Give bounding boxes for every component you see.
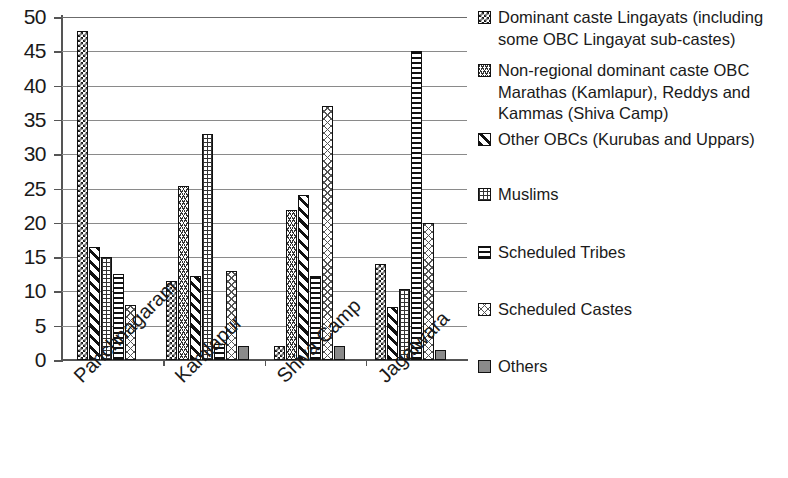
y-axis-tick-label: 5 bbox=[0, 315, 46, 336]
x-axis-tick-mark bbox=[265, 359, 267, 366]
bar-group bbox=[163, 17, 264, 360]
bar-chart-figure: 05101520253035404550 PanchnagaramKamlapu… bbox=[0, 0, 788, 478]
legend-label: Other OBCs (Kurubas and Uppars) bbox=[498, 129, 755, 151]
y-axis-tick-label: 10 bbox=[0, 280, 46, 301]
y-axis-tick-label: 0 bbox=[0, 349, 46, 370]
y-axis-tick-label: 20 bbox=[0, 212, 46, 233]
y-axis-tick-label: 50 bbox=[0, 6, 46, 27]
bar-solid-gray bbox=[238, 346, 249, 360]
legend-item[interactable]: Other OBCs (Kurubas and Uppars) bbox=[478, 129, 755, 151]
legend-item[interactable]: Muslims bbox=[478, 184, 559, 206]
legend-label: Dominant caste Lingayats (including some… bbox=[498, 7, 773, 50]
legend-swatch-icon bbox=[478, 246, 491, 259]
y-axis-tick-label: 45 bbox=[0, 40, 46, 61]
x-axis-tick-mark bbox=[163, 359, 165, 366]
legend-swatch-icon bbox=[478, 303, 491, 316]
y-axis-tick-label: 40 bbox=[0, 75, 46, 96]
chart-legend: Dominant caste Lingayats (including some… bbox=[478, 0, 788, 478]
y-axis-tick-label: 15 bbox=[0, 246, 46, 267]
bar-group bbox=[366, 17, 467, 360]
bar-solid-gray bbox=[435, 350, 446, 360]
y-axis-tick-label: 35 bbox=[0, 109, 46, 130]
legend-swatch-icon bbox=[478, 360, 491, 373]
bar-fine-grid bbox=[202, 134, 213, 360]
legend-label: Others bbox=[498, 356, 548, 378]
legend-item[interactable]: Others bbox=[478, 356, 548, 378]
legend-label: Non-regional dominant caste OBC Marathas… bbox=[498, 60, 773, 125]
bar-checkerboard bbox=[77, 31, 88, 360]
legend-item[interactable]: Non-regional dominant caste OBC Marathas… bbox=[478, 60, 773, 125]
legend-item[interactable]: Dominant caste Lingayats (including some… bbox=[478, 7, 773, 50]
y-axis-tick-label: 25 bbox=[0, 178, 46, 199]
legend-label: Scheduled Castes bbox=[498, 299, 632, 321]
legend-item[interactable]: Scheduled Castes bbox=[478, 299, 632, 321]
bar-wavy-crosshatch bbox=[178, 186, 189, 360]
bar-horizontal-lines bbox=[411, 51, 422, 360]
plot-area bbox=[62, 17, 467, 360]
legend-item[interactable]: Scheduled Tribes bbox=[478, 242, 626, 264]
legend-swatch-icon bbox=[478, 188, 491, 201]
bar-checkerboard bbox=[274, 346, 285, 360]
bar-checkerboard bbox=[375, 264, 386, 360]
legend-label: Scheduled Tribes bbox=[498, 242, 626, 264]
x-axis-tick-mark bbox=[366, 359, 368, 366]
y-axis-tick-label: 30 bbox=[0, 143, 46, 164]
bar-solid-gray bbox=[334, 346, 345, 360]
legend-swatch-icon bbox=[478, 64, 491, 77]
legend-label: Muslims bbox=[498, 184, 559, 206]
legend-swatch-icon bbox=[478, 11, 491, 24]
legend-swatch-icon bbox=[478, 133, 491, 146]
bar-wavy-crosshatch bbox=[286, 210, 297, 360]
